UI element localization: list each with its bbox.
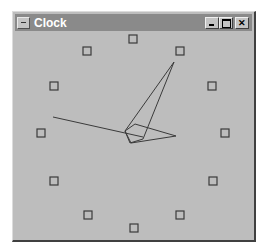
hour-marker-3	[221, 129, 229, 137]
hour-marker-9	[37, 129, 45, 137]
hour-marker-8	[50, 177, 58, 185]
hour-marker-7	[84, 211, 92, 219]
hour-marker-11	[83, 47, 91, 55]
hour-marker-10	[50, 82, 58, 90]
hour-markers	[37, 35, 229, 232]
second-hand	[53, 117, 143, 137]
minute-hand	[125, 62, 174, 143]
hour-marker-1	[176, 47, 184, 55]
hour-marker-12	[129, 35, 137, 43]
hour-marker-4	[209, 177, 217, 185]
hour-marker-6	[130, 224, 138, 232]
clock-face	[0, 0, 268, 252]
hour-marker-2	[208, 82, 216, 90]
hour-marker-5	[176, 211, 184, 219]
hour-hand	[125, 124, 176, 143]
